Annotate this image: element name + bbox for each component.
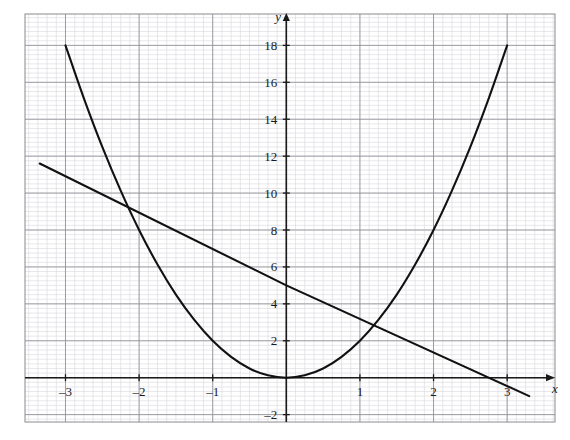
x-tick-label: –1: [205, 384, 219, 399]
y-tick-label: 2: [271, 333, 278, 348]
graph-figure: –3–2–1123 –224681012141618 x y: [0, 0, 570, 440]
y-tick-label: 16: [264, 75, 278, 90]
x-axis-label: x: [551, 381, 558, 396]
x-tick-label: 2: [430, 384, 437, 399]
coordinate-plane: –3–2–1123 –224681012141618 x y: [0, 0, 570, 440]
y-tick-label: –2: [263, 407, 277, 422]
x-tick-label: –2: [132, 384, 146, 399]
y-tick-label: 8: [271, 223, 278, 238]
y-axis-label: y: [273, 9, 281, 24]
x-tick-label: –3: [58, 384, 72, 399]
y-tick-label: 12: [264, 149, 277, 164]
y-tick-label: 18: [264, 38, 277, 53]
x-tick-label: 1: [357, 384, 364, 399]
y-tick-label: 10: [264, 186, 277, 201]
figure-background: [0, 0, 570, 440]
y-tick-label: 6: [271, 259, 278, 274]
y-tick-label: 14: [264, 112, 278, 127]
y-tick-label: 4: [271, 296, 278, 311]
